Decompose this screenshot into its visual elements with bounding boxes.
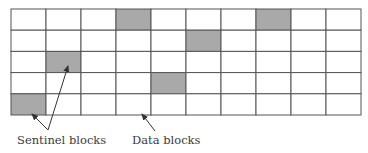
data-block	[326, 30, 361, 51]
sentinel-block	[11, 94, 46, 115]
grid-cells	[11, 9, 361, 115]
data-block	[116, 73, 151, 94]
data-block	[291, 9, 326, 30]
data-block	[326, 9, 361, 30]
data-block	[116, 51, 151, 72]
block-grid-diagram	[0, 0, 368, 153]
data-block	[326, 94, 361, 115]
data-block	[256, 51, 291, 72]
data-block	[46, 73, 81, 94]
data-block	[11, 30, 46, 51]
data-block	[221, 9, 256, 30]
data-block	[256, 30, 291, 51]
data-block	[11, 51, 46, 72]
sentinel-block	[46, 51, 81, 72]
data-block	[326, 51, 361, 72]
data-block	[81, 94, 116, 115]
data-block	[256, 73, 291, 94]
data-block	[11, 73, 46, 94]
sentinel-block	[256, 9, 291, 30]
sentinel-block	[116, 9, 151, 30]
data-block	[81, 73, 116, 94]
data-block	[326, 73, 361, 94]
data-arrow-icon	[142, 114, 155, 131]
data-block	[151, 51, 186, 72]
data-block	[291, 73, 326, 94]
data-block	[221, 73, 256, 94]
sentinel-blocks-label: Sentinel blocks	[17, 133, 106, 147]
data-block	[186, 9, 221, 30]
data-block	[291, 94, 326, 115]
data-blocks-label: Data blocks	[132, 133, 200, 147]
data-block	[46, 9, 81, 30]
data-block	[256, 94, 291, 115]
data-block	[151, 94, 186, 115]
data-block	[221, 30, 256, 51]
data-block	[116, 30, 151, 51]
data-block	[151, 9, 186, 30]
data-block	[116, 94, 151, 115]
data-block	[81, 30, 116, 51]
data-block	[221, 51, 256, 72]
data-block	[186, 94, 221, 115]
data-block	[46, 94, 81, 115]
data-block	[46, 30, 81, 51]
data-block	[291, 51, 326, 72]
data-block	[151, 30, 186, 51]
data-block	[81, 9, 116, 30]
sentinel-block	[151, 73, 186, 94]
sentinel-block	[186, 30, 221, 51]
data-block	[291, 30, 326, 51]
data-block	[81, 51, 116, 72]
data-block	[11, 9, 46, 30]
data-block	[186, 73, 221, 94]
data-block	[221, 94, 256, 115]
data-block	[186, 51, 221, 72]
sentinel-arrow-1-icon	[32, 114, 48, 130]
